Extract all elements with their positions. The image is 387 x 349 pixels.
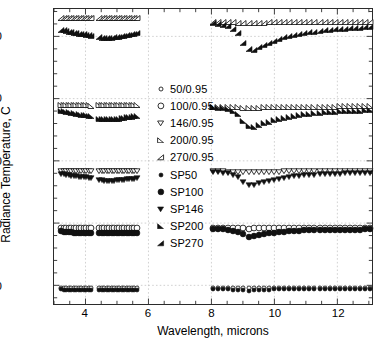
legend-label: 270/0.95 <box>170 151 214 163</box>
legend-marker-icon <box>152 172 170 178</box>
data-point <box>366 24 373 31</box>
legend-item-sp100[interactable]: SP100 <box>152 183 236 200</box>
y-axis-title-text: Radiance Temperature, C <box>0 106 14 243</box>
legend-item-200-0-95[interactable]: 200/0.95 <box>152 132 236 149</box>
legend-label: SP270 <box>170 237 204 249</box>
legend-item-270-0-95[interactable]: 270/0.95 <box>152 149 236 166</box>
data-point <box>366 226 374 234</box>
y-tick-label: 250 <box>0 30 2 42</box>
legend: 50/0.95100/0.95146/0.95200/0.95270/0.95S… <box>152 80 236 252</box>
data-point <box>88 102 95 109</box>
data-point <box>366 170 373 176</box>
legend-label: 200/0.95 <box>170 134 214 146</box>
legend-marker-icon <box>152 86 170 92</box>
legend-item-sp200[interactable]: SP200 <box>152 218 236 235</box>
legend-marker-icon <box>152 102 170 110</box>
y-tick-label: 100 <box>0 218 2 230</box>
data-point <box>88 175 95 181</box>
y-axis-title: Radiance Temperature, C <box>0 0 14 349</box>
legend-label: SP146 <box>170 203 204 215</box>
x-tick-label: 4 <box>81 307 87 319</box>
x-axis-title: Wavelength, microns <box>53 324 373 338</box>
x-tick-label: 6 <box>145 307 151 319</box>
data-point <box>88 168 95 174</box>
x-tick-label: 12 <box>332 307 345 319</box>
x-tick-label: 8 <box>208 307 214 319</box>
legend-marker-icon <box>152 188 170 196</box>
legend-item-sp270[interactable]: SP270 <box>152 235 236 252</box>
data-point <box>366 107 373 114</box>
legend-item-sp146[interactable]: SP146 <box>152 200 236 217</box>
data-point <box>133 175 140 181</box>
legend-label: SP100 <box>170 186 204 198</box>
data-point <box>235 30 242 37</box>
legend-marker-icon <box>152 137 170 144</box>
legend-label: SP200 <box>170 220 204 232</box>
legend-item-146-0-95[interactable]: 146/0.95 <box>152 114 236 131</box>
legend-item-100-0-95[interactable]: 100/0.95 <box>152 97 236 114</box>
y-tick-label: 150 <box>0 155 2 167</box>
legend-marker-icon <box>152 154 170 161</box>
data-point <box>88 32 95 39</box>
data-point <box>133 113 140 120</box>
legend-item-sp50[interactable]: SP50 <box>152 166 236 183</box>
x-tick-label: 10 <box>268 307 281 319</box>
data-point <box>88 113 95 120</box>
data-point <box>367 286 373 292</box>
data-point <box>134 287 140 293</box>
legend-marker-icon <box>152 240 170 247</box>
data-point <box>133 102 140 109</box>
y-tick-label: 200 <box>0 92 2 104</box>
legend-label: SP50 <box>170 169 197 181</box>
legend-marker-icon <box>152 206 170 212</box>
legend-label: 50/0.95 <box>170 83 207 95</box>
data-point <box>133 229 141 237</box>
data-point <box>133 15 140 22</box>
y-tick-label: 50 <box>0 280 2 292</box>
data-point <box>88 287 94 293</box>
radiance-temperature-chart: Radiance Temperature, C Wavelength, micr… <box>0 0 387 349</box>
data-point <box>133 30 140 37</box>
data-point <box>133 168 140 174</box>
legend-marker-icon <box>152 120 170 126</box>
legend-label: 146/0.95 <box>170 117 214 129</box>
legend-marker-icon <box>152 223 170 230</box>
legend-item-50-0-95[interactable]: 50/0.95 <box>152 80 236 97</box>
legend-label: 100/0.95 <box>170 100 214 112</box>
data-point <box>88 15 95 22</box>
